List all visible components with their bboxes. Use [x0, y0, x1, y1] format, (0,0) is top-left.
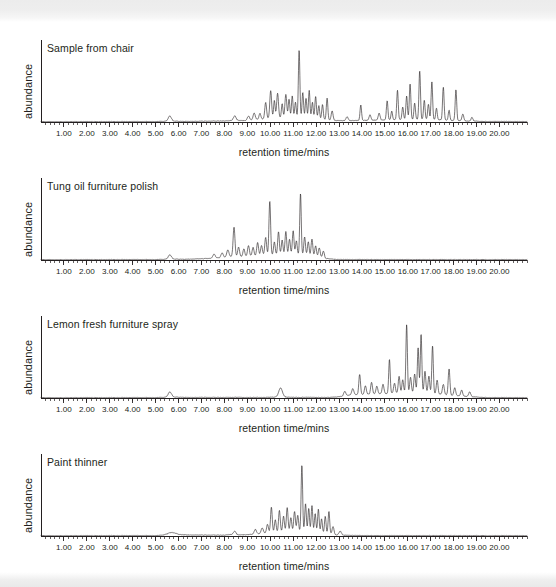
x-tick-label: 4.00	[125, 129, 141, 138]
x-tick-label: 1.00	[56, 405, 72, 414]
x-tick-label: 8.00	[217, 543, 233, 552]
x-tick-label: 1.00	[56, 267, 72, 276]
x-tick-label: 4.00	[125, 405, 141, 414]
x-tick-label: 14.00	[352, 405, 373, 414]
x-tick-label: 4.00	[125, 267, 141, 276]
x-tick-label: 19.00	[466, 405, 487, 414]
axes	[41, 454, 527, 536]
x-tick-label: 12.00	[306, 405, 327, 414]
x-tick-label: 15.00	[375, 267, 396, 276]
x-tick-label: 5.00	[148, 543, 164, 552]
x-tick-label: 6.00	[171, 129, 187, 138]
x-tick-label: 13.00	[329, 267, 350, 276]
x-tick-label: 5.00	[148, 267, 164, 276]
x-tick-label: 8.00	[217, 267, 233, 276]
x-tick-label: 13.00	[329, 129, 350, 138]
x-axis-label: retention time/mins	[41, 422, 527, 434]
chromatogram-trace	[41, 325, 527, 398]
x-tick-label: 7.00	[194, 543, 210, 552]
x-tick-label: 2.00	[79, 543, 95, 552]
x-tick-label: 11.00	[283, 405, 303, 414]
chromatogram-trace	[41, 194, 527, 260]
x-tick-label: 15.00	[375, 129, 396, 138]
y-axis-label: abundance	[22, 202, 34, 257]
x-axis-ticks: 1.002.003.004.005.006.007.008.009.0010.0…	[46, 536, 527, 552]
x-tick-label: 8.00	[217, 405, 233, 414]
x-tick-label: 7.00	[194, 129, 210, 138]
x-axis-ticks: 1.002.003.004.005.006.007.008.009.0010.0…	[46, 260, 527, 276]
x-tick-label: 12.00	[306, 543, 327, 552]
x-tick-label: 18.00	[444, 129, 465, 138]
x-tick-label: 2.00	[79, 267, 95, 276]
x-axis-label: retention time/mins	[41, 560, 527, 572]
x-tick-label: 3.00	[102, 129, 118, 138]
x-tick-label: 16.00	[398, 129, 419, 138]
x-tick-label: 5.00	[148, 405, 164, 414]
x-tick-label: 6.00	[171, 267, 187, 276]
x-axis-ticks: 1.002.003.004.005.006.007.008.009.0010.0…	[46, 122, 527, 138]
x-tick-label: 9.00	[239, 267, 255, 276]
x-tick-label: 18.00	[444, 267, 465, 276]
x-tick-label: 1.00	[56, 129, 72, 138]
page-top-edge-band	[0, 0, 556, 22]
x-tick-label: 10.00	[260, 267, 281, 276]
x-tick-label: 14.00	[352, 129, 373, 138]
x-tick-label: 19.00	[466, 129, 487, 138]
x-tick-label: 17.00	[421, 405, 442, 414]
x-tick-label: 12.00	[306, 267, 327, 276]
panel-sample-from-chair: abundanceSample from chairretention time…	[0, 32, 556, 172]
x-tick-label: 20.00	[489, 129, 510, 138]
panel-tung-oil-furniture-polish: abundanceTung oil furniture polishretent…	[0, 170, 556, 310]
x-tick-label: 10.00	[260, 543, 281, 552]
x-tick-label: 13.00	[329, 405, 350, 414]
x-tick-label: 14.00	[352, 267, 373, 276]
panel-title: Paint thinner	[47, 456, 107, 468]
x-tick-label: 17.00	[421, 267, 442, 276]
x-tick-label: 19.00	[466, 543, 487, 552]
x-tick-label: 11.00	[283, 267, 303, 276]
x-tick-label: 18.00	[444, 543, 465, 552]
x-tick-label: 1.00	[56, 543, 72, 552]
y-axis-label: abundance	[22, 478, 34, 533]
x-tick-label: 17.00	[421, 543, 442, 552]
panel-title: Lemon fresh furniture spray	[47, 318, 178, 330]
x-tick-label: 19.00	[466, 267, 487, 276]
panel-paint-thinner: abundancePaint thinnerretention time/min…	[0, 446, 556, 586]
x-tick-label: 2.00	[79, 405, 95, 414]
y-axis-label: abundance	[22, 64, 34, 119]
x-tick-label: 5.00	[148, 129, 164, 138]
x-tick-label: 13.00	[329, 543, 350, 552]
x-tick-label: 14.00	[352, 543, 373, 552]
x-tick-label: 15.00	[375, 405, 396, 414]
x-tick-label: 15.00	[375, 543, 396, 552]
x-tick-label: 6.00	[171, 405, 187, 414]
x-tick-label: 3.00	[102, 267, 118, 276]
x-tick-label: 20.00	[489, 543, 510, 552]
panel-lemon-fresh-furniture-spray: abundanceLemon fresh furniture sprayrete…	[0, 308, 556, 448]
x-axis-label: retention time/mins	[41, 146, 527, 158]
x-tick-label: 11.00	[283, 129, 303, 138]
x-tick-label: 20.00	[489, 405, 510, 414]
x-tick-label: 11.00	[283, 543, 303, 552]
x-tick-label: 7.00	[194, 267, 210, 276]
x-tick-label: 16.00	[398, 543, 419, 552]
x-tick-label: 3.00	[102, 405, 118, 414]
x-tick-label: 10.00	[260, 405, 281, 414]
chromatogram-trace	[41, 51, 527, 122]
x-tick-label: 20.00	[489, 267, 510, 276]
x-tick-label: 12.00	[306, 129, 327, 138]
x-tick-label: 8.00	[217, 129, 233, 138]
figure-page: abundanceSample from chairretention time…	[0, 0, 556, 587]
panel-title: Sample from chair	[47, 42, 134, 54]
x-tick-label: 6.00	[171, 543, 187, 552]
x-tick-label: 3.00	[102, 543, 118, 552]
x-tick-label: 16.00	[398, 267, 419, 276]
panel-title: Tung oil furniture polish	[47, 180, 158, 192]
x-tick-label: 2.00	[79, 129, 95, 138]
y-axis-label: abundance	[22, 340, 34, 395]
x-tick-label: 17.00	[421, 129, 442, 138]
x-axis-label: retention time/mins	[41, 284, 527, 296]
x-tick-label: 7.00	[194, 405, 210, 414]
x-tick-label: 9.00	[239, 129, 255, 138]
x-tick-label: 10.00	[260, 129, 281, 138]
